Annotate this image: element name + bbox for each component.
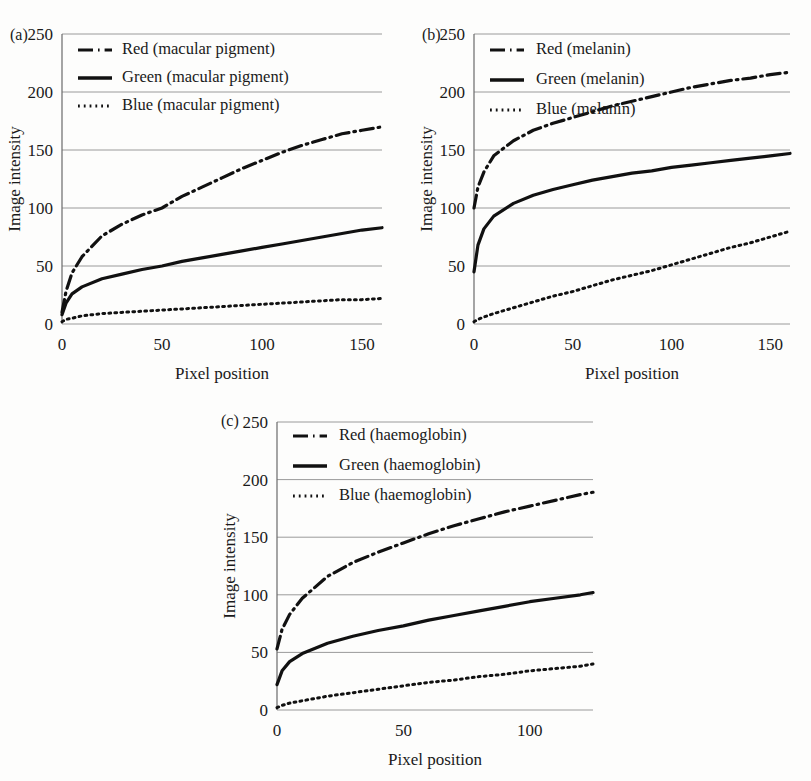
y-tick-label: 50	[36, 257, 53, 276]
x-tick-label: 50	[154, 335, 171, 354]
line-chart-b: 050100150200250050100150Pixel positionIm…	[408, 8, 808, 393]
series-line-dashdot	[277, 492, 593, 649]
y-tick-label: 200	[440, 83, 466, 102]
y-tick-label: 100	[28, 199, 54, 218]
legend-label: Red (haemoglobin)	[339, 425, 467, 444]
series-line-dotted	[277, 664, 593, 708]
x-tick-label: 100	[659, 335, 685, 354]
x-tick-label: 100	[517, 721, 543, 740]
y-tick-label: 250	[243, 413, 269, 432]
y-tick-label: 100	[440, 199, 466, 218]
series-line-dotted	[474, 231, 790, 321]
legend-label: Green (melanin)	[536, 69, 645, 88]
x-tick-label: 100	[249, 335, 275, 354]
x-axis-title: Pixel position	[388, 750, 482, 769]
x-tick-label: 0	[470, 335, 479, 354]
y-tick-label: 100	[243, 586, 269, 605]
legend-label: Green (haemoglobin)	[339, 455, 481, 474]
series-line-solid	[474, 153, 790, 271]
x-tick-label: 150	[349, 335, 375, 354]
y-axis-title: Image intensity	[417, 126, 436, 232]
chart-panel-a: (a) 050100150200250050100150Pixel positi…	[0, 8, 400, 393]
x-tick-label: 50	[564, 335, 581, 354]
x-axis-title: Pixel position	[175, 364, 269, 383]
y-tick-label: 250	[440, 25, 466, 44]
y-tick-label: 200	[28, 83, 54, 102]
x-tick-label: 50	[395, 721, 412, 740]
x-tick-label: 150	[758, 335, 784, 354]
x-axis-title: Pixel position	[585, 364, 679, 383]
y-tick-label: 50	[251, 643, 268, 662]
x-tick-label: 0	[58, 335, 67, 354]
chart-panel-b: (b) 050100150200250050100150Pixel positi…	[408, 8, 808, 393]
y-axis-title: Image intensity	[220, 513, 239, 619]
line-chart-c: 050100150200250050100Pixel positionImage…	[205, 398, 615, 781]
y-tick-label: 150	[243, 528, 269, 547]
series-line-solid	[62, 228, 382, 315]
y-tick-label: 150	[440, 141, 466, 160]
y-tick-label: 200	[243, 471, 269, 490]
series-line-dotted	[62, 298, 382, 321]
y-tick-label: 50	[448, 257, 465, 276]
y-axis-title: Image intensity	[5, 126, 24, 232]
legend-label: Green (macular pigment)	[122, 67, 289, 86]
y-tick-label: 150	[28, 141, 54, 160]
y-tick-label: 250	[28, 25, 54, 44]
y-tick-label: 0	[457, 315, 466, 334]
legend-label: Blue (macular pigment)	[122, 95, 280, 114]
series-line-dashdot	[474, 72, 790, 208]
chart-panel-c: (c) 050100150200250050100Pixel positionI…	[205, 398, 615, 781]
legend-label: Red (melanin)	[536, 39, 631, 58]
series-line-dashdot	[62, 127, 382, 313]
legend-label: Red (macular pigment)	[122, 39, 275, 58]
x-tick-label: 0	[273, 721, 282, 740]
figure-panel-group: (a) 050100150200250050100150Pixel positi…	[0, 0, 811, 781]
y-tick-label: 0	[45, 315, 54, 334]
y-tick-label: 0	[260, 701, 269, 720]
line-chart-a: 050100150200250050100150Pixel positionIm…	[0, 8, 400, 393]
legend-label: Blue (haemoglobin)	[339, 485, 471, 504]
legend-label: Blue (melanin)	[536, 99, 635, 118]
